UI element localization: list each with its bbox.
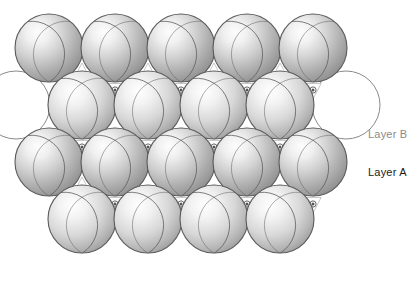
dot-mark-icon — [312, 203, 315, 206]
sphere-body — [180, 185, 248, 253]
dot-mark-icon — [81, 146, 84, 149]
sphere-body — [48, 185, 116, 253]
dot-mark-icon — [147, 146, 150, 149]
dot-mark-icon — [114, 89, 117, 92]
dot-mark-icon — [114, 203, 117, 206]
sphere-body — [114, 185, 182, 253]
sphere-stack — [15, 14, 347, 253]
sphere — [114, 185, 182, 253]
layer-b-label: Layer B — [368, 128, 407, 140]
sphere — [48, 185, 116, 253]
figure-canvas: xxxxxxxxx Layer B Layer A — [0, 0, 419, 286]
sphere — [246, 185, 314, 253]
sphere-body — [246, 185, 314, 253]
sphere-packing-diagram: xxxxxxxxx Layer B Layer A — [0, 0, 419, 286]
sphere — [180, 185, 248, 253]
dot-mark-icon — [180, 203, 183, 206]
dot-mark-icon — [246, 203, 249, 206]
dot-mark-icon — [213, 146, 216, 149]
dot-mark-icon — [279, 146, 282, 149]
layer-a-label: Layer A — [368, 166, 407, 178]
dot-mark-icon — [246, 89, 249, 92]
dot-mark-icon — [312, 89, 315, 92]
dot-mark-icon — [180, 89, 183, 92]
